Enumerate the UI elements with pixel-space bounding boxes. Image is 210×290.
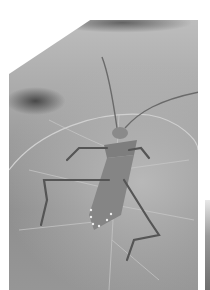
adjacent-image-edge bbox=[205, 200, 210, 290]
insect-illustration bbox=[9, 20, 198, 290]
insect-photo bbox=[9, 20, 198, 290]
